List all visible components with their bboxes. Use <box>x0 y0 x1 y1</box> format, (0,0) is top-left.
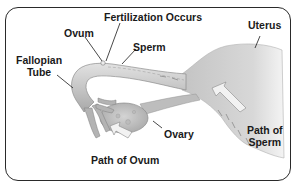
label-fertilization-occurs: Fertilization Occurs <box>104 12 202 24</box>
ovum-cell <box>101 61 105 65</box>
label-fallopian-line2: Tube <box>16 67 62 79</box>
label-sperm: Sperm <box>133 42 166 54</box>
label-path-of-sperm-line1: Path of <box>247 125 283 137</box>
label-fallopian-line1: Fallopian <box>16 55 62 67</box>
label-path-of-sperm: Path of Sperm <box>247 125 283 148</box>
ovarian-ligament-shape <box>140 94 200 114</box>
label-path-of-sperm-line2: Sperm <box>247 137 283 149</box>
label-fallopian-tube: Fallopian Tube <box>16 55 62 78</box>
label-ovary: Ovary <box>164 129 194 141</box>
label-uterus: Uterus <box>248 20 281 32</box>
label-ovum: Ovum <box>64 28 94 40</box>
label-path-of-ovum: Path of Ovum <box>91 155 159 167</box>
